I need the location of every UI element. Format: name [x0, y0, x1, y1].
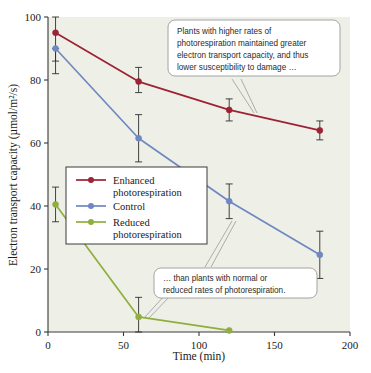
y-tick-label-40: 40: [30, 200, 42, 212]
y-axis-tick-labels: 020406080100: [25, 11, 42, 338]
data-point: [136, 135, 142, 141]
x-axis-title: Time (min): [173, 350, 225, 363]
callout-lower-line-2: reduced rates of photorespiration.: [163, 286, 285, 295]
legend-swatch-marker: [88, 177, 94, 183]
legend-label-line-1: Enhanced: [113, 175, 155, 186]
y-axis-ticks: [44, 17, 48, 332]
data-point: [53, 30, 59, 36]
x-tick-label-50: 50: [118, 339, 130, 351]
x-tick-label-200: 200: [342, 339, 359, 351]
x-tick-label-0: 0: [45, 339, 51, 351]
y-tick-label-100: 100: [25, 11, 42, 23]
data-point: [317, 127, 323, 133]
legend-label-line-2: photorespiration: [113, 187, 183, 198]
data-point: [136, 314, 142, 320]
legend-label-line-2: photorespiration: [113, 229, 183, 240]
legend-swatch-marker: [88, 219, 94, 225]
data-point: [226, 107, 232, 113]
data-point: [53, 201, 59, 207]
callout-upper-line-2: photorespiration maintained greater: [177, 39, 307, 48]
y-tick-label-20: 20: [30, 263, 42, 275]
y-tick-label-60: 60: [30, 137, 42, 149]
callout-upper-line-3: electron transport capacity, and thus: [177, 51, 308, 60]
callout-lower-line-1: … than plants with normal or: [163, 274, 267, 283]
data-point: [226, 327, 232, 333]
x-axis-ticks: [48, 332, 350, 336]
legend-label-line-1: Control: [113, 201, 145, 212]
callout-upper-line-4: lower susceptibility to damage …: [177, 63, 297, 72]
y-tick-label-80: 80: [30, 74, 42, 86]
callout-upper-line-1: Plants with higher rates of: [177, 27, 272, 36]
x-tick-label-150: 150: [266, 339, 283, 351]
legend-swatch-marker: [88, 203, 94, 209]
data-point: [317, 252, 323, 258]
chart-legend: EnhancedphotorespirationControlReducedph…: [66, 167, 207, 244]
legend-label-line-1: Reduced: [113, 217, 150, 228]
chart-figure: 020406080100 050100150200 Electron trans…: [0, 0, 371, 373]
y-axis-title: Electron transport capacity (µmol/m²/s): [7, 84, 20, 266]
data-point: [136, 79, 142, 85]
callout-lower: … than plants with normal or reduced rat…: [154, 268, 317, 298]
data-point: [226, 198, 232, 204]
callout-upper: Plants with higher rates of photorespira…: [168, 20, 340, 76]
y-tick-label-0: 0: [36, 326, 42, 338]
chart-svg: 020406080100 050100150200 Electron trans…: [0, 0, 371, 373]
data-point: [53, 46, 59, 52]
